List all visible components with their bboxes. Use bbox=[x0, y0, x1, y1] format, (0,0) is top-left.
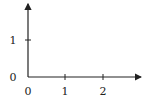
y-tick-label-0: 0 bbox=[10, 71, 17, 84]
x-tick-label-2: 2 bbox=[100, 85, 107, 98]
x-tick-label-0: 0 bbox=[25, 85, 32, 98]
y-tick-label-1: 1 bbox=[10, 34, 17, 47]
x-tick-label-1: 1 bbox=[62, 85, 69, 98]
chart-plot-area: 0 1 2 0 1 bbox=[0, 0, 150, 104]
